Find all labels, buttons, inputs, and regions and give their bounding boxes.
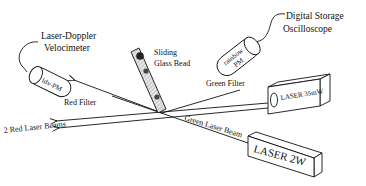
- experiment-diagram: Sliding Glass Bead Laser-Doppler Velocim…: [0, 0, 366, 186]
- dso-label-line2: Oscilloscope: [283, 24, 332, 34]
- scattered-light-to-rainbow: [162, 90, 240, 113]
- ldv-pm-tube: ldv-PM: [27, 64, 74, 99]
- glass-bead: [136, 52, 144, 60]
- green-laser-beam: [112, 96, 248, 143]
- green-beam-label: Green Laser Beam: [183, 113, 244, 139]
- red-filter-label: Red Filter: [64, 98, 97, 107]
- laser-2w: LASER 2W: [248, 132, 322, 177]
- red-beams-label: 2 Red Laser Beams: [3, 120, 66, 135]
- rainbow-pm-tube: rainbow PM: [213, 34, 264, 80]
- laser-35mw: LASER 35mW: [268, 74, 330, 114]
- dso-label-line1: Digital Storage: [286, 11, 344, 21]
- dso-cable: [256, 14, 285, 42]
- glass-bead: [154, 94, 159, 99]
- ldv-label-line2: Velocimeter: [44, 43, 91, 53]
- glass-bead: [143, 68, 148, 73]
- green-filter-label: Green Filter: [206, 79, 245, 88]
- bead-label-line1: Sliding: [154, 48, 177, 57]
- laser-35mw-aperture: [271, 93, 278, 107]
- bead-label-line2: Glass Bead: [154, 59, 190, 68]
- ldv-label-line1: Laser-Doppler: [41, 31, 97, 41]
